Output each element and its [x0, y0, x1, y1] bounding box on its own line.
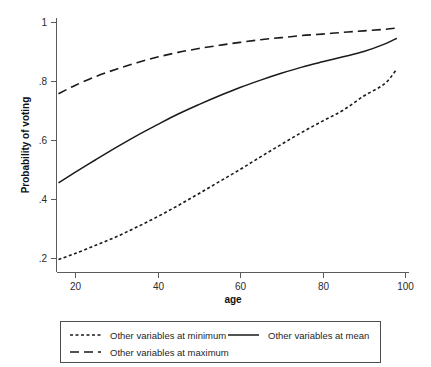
- figure-background: [0, 0, 431, 367]
- probability-of-voting-line-chart: .2.4.6.81 20406080100 age Probability of…: [0, 0, 431, 367]
- legend-label: Other variables at minimum: [110, 330, 226, 341]
- x-tick-label: 100: [397, 281, 414, 292]
- y-tick-label: .2: [39, 253, 48, 264]
- chart-figure: .2.4.6.81 20406080100 age Probability of…: [0, 0, 431, 367]
- x-tick-label: 40: [153, 281, 165, 292]
- y-tick-label: .8: [39, 76, 48, 87]
- x-tick-label: 20: [70, 281, 82, 292]
- y-axis-title: Probability of voting: [20, 97, 31, 194]
- legend-label: Other variables at mean: [268, 330, 369, 341]
- y-tick-label: .4: [39, 194, 48, 205]
- y-tick-label: .6: [39, 135, 48, 146]
- x-tick-label: 60: [235, 281, 247, 292]
- legend-label: Other variables at maximum: [110, 347, 229, 358]
- x-axis-title: age: [224, 294, 242, 305]
- x-tick-label: 80: [318, 281, 330, 292]
- y-tick-label: 1: [41, 17, 47, 28]
